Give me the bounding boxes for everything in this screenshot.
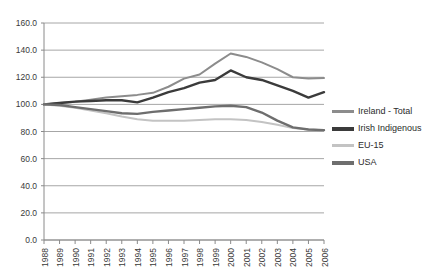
legend-item-usa: USA — [332, 154, 435, 171]
chart-legend: Ireland - Total Irish Indigenous EU-15 U… — [332, 103, 435, 171]
legend-item-eu-15: EU-15 — [332, 137, 435, 154]
x-axis-tick-label: 1996 — [164, 248, 174, 267]
legend-label-usa: USA — [358, 158, 377, 167]
legend-label-ireland-total: Ireland - Total — [358, 107, 412, 116]
x-axis-tick-label: 2002 — [257, 248, 267, 267]
series-line — [44, 54, 324, 105]
line-chart: 0.020.040.060.080.0100.0120.0140.0160.01… — [0, 0, 435, 276]
legend-label-irish-indigenous: Irish Indigenous — [358, 124, 422, 133]
legend-item-irish-indigenous: Irish Indigenous — [332, 120, 435, 137]
x-axis-tick-label: 1990 — [71, 248, 81, 267]
y-axis-tick-label: 20.0 — [20, 208, 37, 218]
legend-item-ireland-total: Ireland - Total — [332, 103, 435, 120]
x-axis-tick-label: 1999 — [211, 248, 221, 267]
y-axis-tick-label: 100.0 — [16, 99, 38, 109]
legend-swatch-ireland-total — [332, 110, 354, 113]
legend-swatch-irish-indigenous — [332, 127, 354, 131]
y-axis-tick-label: 160.0 — [16, 18, 38, 28]
x-axis-tick-label: 1988 — [40, 248, 50, 267]
y-axis-tick-label: 80.0 — [20, 127, 37, 137]
x-axis-tick-label: 1992 — [102, 248, 112, 267]
x-axis-tick-label: 1994 — [133, 248, 143, 267]
x-axis-tick-label: 2006 — [320, 248, 330, 267]
x-axis-tick-label: 1989 — [55, 248, 65, 267]
y-axis-tick-label: 40.0 — [20, 181, 37, 191]
x-axis-tick-label: 1998 — [195, 248, 205, 267]
legend-label-eu-15: EU-15 — [358, 141, 384, 150]
y-axis-tick-label: 60.0 — [20, 154, 37, 164]
y-axis-tick-label: 0.0 — [25, 235, 37, 245]
x-axis-tick-label: 2003 — [273, 248, 283, 267]
x-axis-tick-label: 2001 — [242, 248, 252, 267]
x-axis-tick-label: 2000 — [226, 248, 236, 267]
y-axis-tick-label: 140.0 — [16, 45, 38, 55]
y-axis-tick-label: 120.0 — [16, 72, 38, 82]
x-axis-tick-label: 1997 — [180, 248, 190, 267]
legend-swatch-eu-15 — [332, 144, 354, 147]
x-axis-tick-label: 1991 — [86, 248, 96, 267]
x-axis-tick-label: 1993 — [117, 248, 127, 267]
x-axis-tick-label: 2005 — [304, 248, 314, 267]
legend-swatch-usa — [332, 161, 354, 165]
x-axis-tick-label: 2004 — [288, 248, 298, 267]
x-axis-tick-label: 1995 — [148, 248, 158, 267]
